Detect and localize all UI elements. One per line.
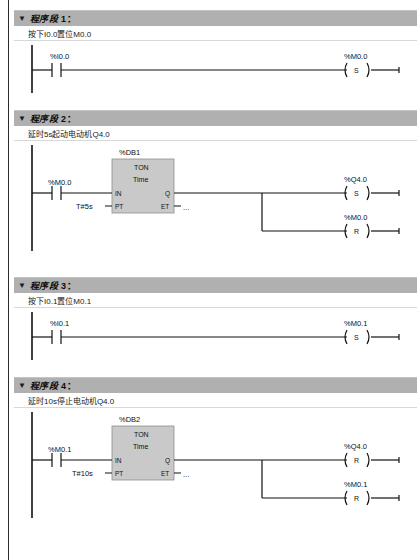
network-4-comment-row[interactable]: 延时10s停止电动机Q4.0	[14, 393, 417, 408]
timer-type-label: TON	[134, 164, 149, 171]
coil-label: %M0.1	[344, 319, 367, 328]
coil-1-letter: S	[354, 190, 359, 197]
network-3-comment-row[interactable]: 按下I0.1置位M0.1	[14, 293, 417, 308]
coil-label: %M0.0	[344, 52, 367, 61]
network-4-colon: ：	[67, 379, 76, 392]
network-4-comment: 延时10s停止电动机Q4.0	[28, 395, 114, 406]
timer-type-label: TON	[134, 431, 149, 438]
timer-db-label: %DB2	[119, 415, 140, 424]
chevron-down-icon[interactable]: ▼	[14, 15, 30, 23]
timer-et-value: ...	[183, 470, 189, 479]
coil-1-label: %Q4.0	[344, 442, 367, 451]
timer-et-pin: ET	[161, 470, 169, 477]
timer-db-label: %DB1	[119, 148, 140, 157]
timer-pt-pin: PT	[115, 203, 123, 210]
coil-letter: S	[354, 334, 359, 341]
timer-q-pin: Q	[165, 457, 170, 465]
chevron-down-icon[interactable]: ▼	[14, 282, 30, 290]
network-4-number: 4	[61, 381, 66, 391]
timer-pt-value[interactable]: T#5s	[76, 202, 93, 211]
network-2-title: 程序段	[30, 112, 58, 125]
network-1-comment-row[interactable]: 按下I0.0置位M0.0	[14, 26, 417, 41]
network-4-title: 程序段	[30, 379, 58, 392]
chevron-down-icon[interactable]: ▼	[14, 115, 30, 123]
coil-right-arc[interactable]	[367, 330, 369, 344]
coil-1-right-arc[interactable]	[367, 453, 369, 467]
coil-2-letter: R	[354, 495, 359, 502]
network-1-number: 1	[61, 14, 66, 24]
network-2: ▼ 程序段 2 ： 延时5s起动电动机Q4.0 %DB1 TON Time IN…	[0, 110, 420, 261]
network-4-header[interactable]: ▼ 程序段 4 ：	[14, 377, 417, 393]
coil-2-label: %M0.0	[344, 213, 367, 222]
coil-right-arc[interactable]	[367, 63, 369, 77]
network-2-colon: ：	[67, 112, 76, 125]
network-3-colon: ：	[67, 279, 76, 292]
network-1-title: 程序段	[30, 12, 58, 25]
network-list: ▼ 程序段 1 ： 按下I0.0置位M0.0 %I0.0 %M0.0	[0, 0, 420, 528]
network-3-number: 3	[61, 281, 66, 291]
network-4: ▼ 程序段 4 ： 延时10s停止电动机Q4.0 %DB2 TON Time I…	[0, 377, 420, 528]
contact-label: %I0.0	[50, 52, 69, 61]
coil-2-right-arc[interactable]	[367, 491, 369, 505]
timer-et-pin: ET	[161, 203, 169, 210]
chevron-down-icon[interactable]: ▼	[14, 382, 30, 390]
network-3-title: 程序段	[30, 279, 58, 292]
network-3-comment: 按下I0.1置位M0.1	[28, 295, 91, 306]
network-3-header[interactable]: ▼ 程序段 3 ：	[14, 277, 417, 293]
timer-in-pin: IN	[115, 457, 122, 464]
timer-timebase-label: Time	[133, 443, 148, 450]
timer-q-pin: Q	[165, 190, 170, 198]
timer-et-value: ...	[183, 203, 189, 212]
network-2-header[interactable]: ▼ 程序段 2 ：	[14, 110, 417, 126]
network-1-comment: 按下I0.0置位M0.0	[28, 28, 91, 39]
coil-2-letter: R	[354, 228, 359, 235]
network-1-rung: %I0.0 %M0.0 S	[14, 41, 420, 96]
contact-label: %M0.0	[48, 178, 71, 187]
network-1-colon: ：	[67, 12, 76, 25]
timer-pt-pin: PT	[115, 470, 123, 477]
network-3-rung: %I0.1 %M0.1 S	[14, 308, 420, 363]
contact-label: %I0.1	[50, 319, 69, 328]
coil-1-label: %Q4.0	[344, 175, 367, 184]
network-3: ▼ 程序段 3 ： 按下I0.1置位M0.1 %I0.1 %M0.1 S	[0, 277, 420, 363]
network-2-comment: 延时5s起动电动机Q4.0	[28, 128, 110, 139]
coil-1-right-arc[interactable]	[367, 186, 369, 200]
network-2-rung: %DB1 TON Time IN PT Q ET %M0.0 T#5s	[14, 141, 420, 261]
contact-label: %M0.1	[48, 445, 71, 454]
network-1: ▼ 程序段 1 ： 按下I0.0置位M0.0 %I0.0 %M0.0	[0, 10, 420, 96]
timer-in-pin: IN	[115, 190, 122, 197]
timer-pt-value[interactable]: T#10s	[72, 469, 93, 478]
coil-2-label: %M0.1	[344, 480, 367, 489]
network-2-number: 2	[61, 114, 66, 124]
timer-timebase-label: Time	[133, 176, 148, 183]
network-2-comment-row[interactable]: 延时5s起动电动机Q4.0	[14, 126, 417, 141]
coil-2-right-arc[interactable]	[367, 224, 369, 238]
network-1-header[interactable]: ▼ 程序段 1 ：	[14, 10, 417, 26]
coil-letter: S	[354, 67, 359, 74]
network-4-rung: %DB2 TON Time IN PT Q ET %M0.1 T#10s ...	[14, 408, 420, 528]
coil-1-letter: R	[354, 457, 359, 464]
